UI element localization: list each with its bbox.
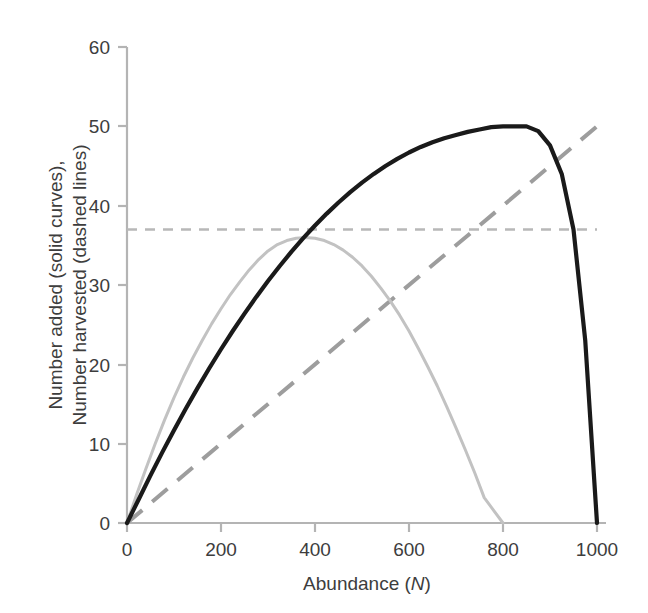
x-tick-label: 200 (205, 539, 237, 560)
y-axis-title-line2: Number harvested (dashed lines) (69, 145, 90, 426)
y-axis-title-line1: Number added (solid curves), (45, 160, 66, 409)
y-axis-title: Number added (solid curves), Number harv… (45, 145, 90, 426)
recruitment-curve-grey (127, 237, 503, 523)
chart-figure: 60 50 40 30 20 10 0 0 200 400 600 800 10… (0, 0, 648, 613)
x-tick-labels: 0 200 400 600 800 1000 (122, 539, 618, 560)
chart-plot-area: 60 50 40 30 20 10 0 0 200 400 600 800 10… (0, 0, 648, 613)
x-tick-label: 600 (393, 539, 425, 560)
y-tick-labels: 60 50 40 30 20 10 0 (89, 37, 110, 534)
y-tick-label: 10 (89, 434, 110, 455)
y-axis-ticks (118, 47, 127, 523)
y-tick-label: 20 (89, 355, 110, 376)
y-tick-label: 0 (99, 513, 110, 534)
x-tick-label: 1000 (576, 539, 618, 560)
y-tick-label: 50 (89, 116, 110, 137)
x-axis-title: Abundance (N) (303, 573, 431, 594)
y-tick-label: 30 (89, 275, 110, 296)
x-axis-ticks (127, 523, 597, 532)
y-tick-label: 60 (89, 37, 110, 58)
x-tick-label: 800 (487, 539, 519, 560)
y-tick-label: 40 (89, 196, 110, 217)
harvest-proportional-line (127, 126, 597, 523)
x-tick-label: 400 (299, 539, 331, 560)
x-tick-label: 0 (122, 539, 133, 560)
